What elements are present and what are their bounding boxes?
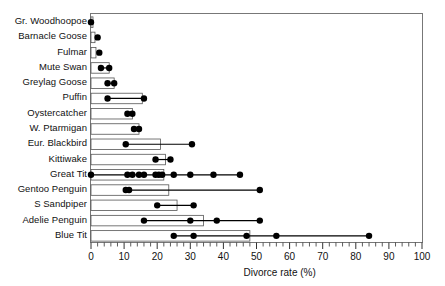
data-point-marker: [106, 65, 112, 71]
category-label: Greylag Goose: [22, 77, 87, 87]
category-label: Great Tit: [50, 169, 87, 179]
category-label: Mute Swan: [39, 62, 87, 72]
data-point-marker: [111, 80, 117, 86]
data-point-marker: [237, 172, 243, 178]
species-row: [91, 124, 142, 135]
x-tick-label: 90: [383, 251, 394, 262]
species-row: [88, 17, 94, 28]
species-row: [91, 108, 136, 119]
x-tick-label: 70: [317, 251, 328, 262]
data-point-marker: [159, 172, 165, 178]
category-label: Puffin: [63, 92, 87, 102]
category-label: Barnacle Goose: [18, 31, 87, 41]
x-tick-label: 60: [284, 251, 295, 262]
x-axis-ticks: [91, 243, 422, 250]
data-point-marker: [187, 217, 193, 223]
x-tick-label: 20: [152, 251, 163, 262]
species-row: [91, 93, 147, 104]
x-tick-label: 100: [414, 251, 431, 262]
data-point-marker: [104, 95, 110, 101]
category-label: Gr. Woodhoopoe: [15, 16, 87, 26]
data-point-marker: [104, 80, 110, 86]
range-box: [91, 47, 96, 58]
data-point-marker: [88, 19, 94, 25]
category-label: Adelie Penguin: [22, 215, 87, 225]
data-point-marker: [243, 233, 249, 239]
data-point-marker: [273, 233, 279, 239]
data-point-marker: [190, 233, 196, 239]
data-point-marker: [257, 217, 263, 223]
data-point-marker: [129, 172, 135, 178]
x-tick-label: 10: [119, 251, 130, 262]
x-tick-label: 0: [88, 251, 94, 262]
data-point-marker: [214, 217, 220, 223]
category-label: W. Ptarmigan: [29, 123, 87, 133]
data-point-marker: [94, 34, 100, 40]
category-label: S Sandpiper: [34, 199, 87, 209]
x-axis-title: Divorce rate (%): [244, 267, 316, 278]
data-point-marker: [152, 156, 158, 162]
data-point-marker: [167, 156, 173, 162]
data-point-marker: [98, 65, 104, 71]
data-point-marker: [187, 172, 193, 178]
data-point-marker: [129, 111, 135, 117]
category-axis-labels: Gr. WoodhoopoeBarnacle GooseFulmarMute S…: [0, 0, 87, 286]
category-label: Blue Tit: [55, 230, 87, 240]
data-point-marker: [171, 233, 177, 239]
data-point-marker: [257, 187, 263, 193]
data-point-marker: [190, 202, 196, 208]
data-point-marker: [154, 202, 160, 208]
range-box: [91, 32, 95, 43]
data-point-marker: [88, 172, 94, 178]
category-label: Fulmar: [57, 47, 87, 57]
category-label: Gentoo Penguin: [18, 184, 87, 194]
x-tick-label: 30: [185, 251, 196, 262]
x-tick-label: 40: [218, 251, 229, 262]
species-row: [91, 63, 112, 74]
species-row: [91, 78, 117, 89]
x-tick-label: 80: [350, 251, 361, 262]
data-point-marker: [136, 126, 142, 132]
species-row: [91, 154, 174, 165]
data-point-marker: [141, 172, 147, 178]
data-point-marker: [141, 217, 147, 223]
divorce-rate-chart: Gr. WoodhoopoeBarnacle GooseFulmarMute S…: [0, 0, 445, 286]
data-point-marker: [189, 141, 195, 147]
data-point-marker: [141, 95, 147, 101]
category-label: Kittiwake: [49, 154, 87, 164]
data-point-marker: [366, 233, 372, 239]
data-point-marker: [123, 141, 129, 147]
x-tick-label: 50: [251, 251, 262, 262]
data-point-marker: [210, 172, 216, 178]
data-point-marker: [126, 187, 132, 193]
data-point-marker: [171, 172, 177, 178]
data-point-marker: [96, 49, 102, 55]
category-label: Eur. Blackbird: [28, 138, 87, 148]
category-label: Oystercatcher: [27, 108, 87, 118]
